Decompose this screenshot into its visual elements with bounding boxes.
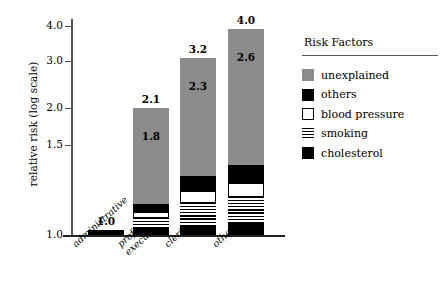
legend-swatch-bloodpressure-icon xyxy=(302,108,314,120)
legend-item-bloodpressure[interactable]: blood pressure xyxy=(302,104,440,124)
bar-inner-label-professional-executive: 1.8 xyxy=(133,130,169,142)
legend-swatch-cholesterol-icon xyxy=(302,147,314,159)
bar-segment-unexplained[interactable] xyxy=(133,108,169,204)
legend-label-unexplained: unexplained xyxy=(321,69,389,82)
legend-divider xyxy=(302,55,438,56)
y-tick-mark xyxy=(65,26,72,27)
y-tick-mark xyxy=(65,61,72,62)
legend-item-others[interactable]: others xyxy=(302,85,440,105)
legend-items: unexplainedothersblood pressuresmokingch… xyxy=(302,65,440,163)
bar-total-label-clerical: 3.2 xyxy=(180,43,216,55)
y-axis-line xyxy=(71,19,73,236)
y-tick-label: 1.5 xyxy=(23,138,63,150)
legend-item-smoking[interactable]: smoking xyxy=(302,124,440,144)
y-tick-mark xyxy=(65,108,72,109)
bar-segment-cholesterol[interactable] xyxy=(228,223,264,235)
legend-swatch-smoking-icon xyxy=(302,128,314,140)
y-tick-label: 2.0 xyxy=(23,101,63,113)
bar-inner-label-clerical: 2.3 xyxy=(180,80,216,92)
bar-administrative[interactable] xyxy=(88,230,124,235)
bar-segment-unexplained[interactable] xyxy=(228,29,264,165)
y-tick-label: 3.0 xyxy=(23,54,63,66)
bar-segment-smoking[interactable] xyxy=(228,197,264,223)
bar-segment-unexplained[interactable] xyxy=(180,58,216,176)
legend-item-cholesterol[interactable]: cholesterol xyxy=(302,143,440,163)
bar-segment-others[interactable] xyxy=(180,176,216,191)
legend-label-smoking: smoking xyxy=(321,127,368,140)
legend-label-others: others xyxy=(321,88,357,101)
legend-label-cholesterol: cholesterol xyxy=(321,147,383,160)
bar-segment-smoking[interactable] xyxy=(180,203,216,225)
bar-total-label-administrative: 1.0 xyxy=(88,215,124,227)
y-tick-label: 1.0 xyxy=(23,228,63,240)
bar-segment-cholesterol[interactable] xyxy=(88,230,124,235)
bar-segment-others[interactable] xyxy=(133,204,169,212)
chart-figure: relative risk (log scale) 4.03.02.01.51.… xyxy=(0,0,445,295)
bar-segment-bloodpressure[interactable] xyxy=(180,191,216,203)
legend-title: Risk Factors xyxy=(304,36,440,49)
bar-professional-executive[interactable] xyxy=(133,108,169,235)
bar-segment-others[interactable] xyxy=(228,165,264,183)
bar-segment-cholesterol[interactable] xyxy=(133,228,169,235)
bar-total-label-other: 4.0 xyxy=(228,14,264,26)
legend-swatch-unexplained-icon xyxy=(302,69,314,81)
bar-inner-label-other: 2.6 xyxy=(228,51,264,63)
legend-swatch-others-icon xyxy=(302,89,314,101)
bar-total-label-professional-executive: 2.1 xyxy=(133,93,169,105)
y-tick-mark xyxy=(65,145,72,146)
legend: Risk Factors unexplainedothersblood pres… xyxy=(302,36,440,163)
legend-label-bloodpressure: blood pressure xyxy=(321,108,404,121)
bar-segment-smoking[interactable] xyxy=(133,218,169,228)
bar-segment-bloodpressure[interactable] xyxy=(228,183,264,197)
bar-segment-cholesterol[interactable] xyxy=(180,225,216,235)
y-tick-label: 4.0 xyxy=(23,19,63,31)
legend-item-unexplained[interactable]: unexplained xyxy=(302,65,440,85)
